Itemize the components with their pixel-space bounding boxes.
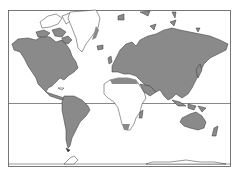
world-map xyxy=(0,0,235,173)
iceland xyxy=(97,45,103,50)
